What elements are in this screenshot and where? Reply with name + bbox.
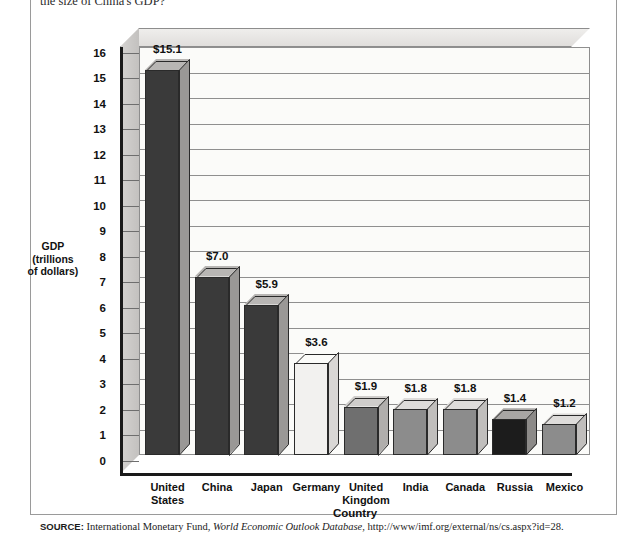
- y-tick-label: 2: [84, 405, 106, 416]
- source-post: , http://www/imf.org/external/ns/cs.aspx…: [362, 521, 563, 532]
- source-label: SOURCE:: [40, 521, 84, 532]
- x-tick-label-line: States: [131, 494, 204, 507]
- bar-united-states[interactable]: [145, 59, 179, 455]
- bar-united-kingdom[interactable]: [344, 396, 378, 455]
- gridline: [139, 47, 590, 48]
- bar-side-outline: [378, 396, 390, 460]
- bar-value-label: $5.9: [236, 278, 297, 290]
- gridline: [139, 73, 590, 74]
- bar-value-label: $7.0: [187, 250, 248, 262]
- bar-front-face: [195, 277, 229, 456]
- bar-value-label: $15.1: [137, 43, 198, 55]
- bar-side-outline: [576, 413, 588, 460]
- y-tick-label: 16: [84, 48, 106, 59]
- source-pre: International Monetary Fund,: [84, 521, 213, 532]
- x-tick-label-line: Mexico: [528, 481, 601, 494]
- bar-front-face: [294, 363, 328, 455]
- gridline: [139, 200, 590, 201]
- gridline: [139, 124, 590, 125]
- y-tick-label: 4: [84, 354, 106, 365]
- bar-side-outline: [278, 294, 290, 460]
- bar-mexico[interactable]: [542, 413, 576, 455]
- y-tick-label: 14: [84, 99, 106, 110]
- y-tick-label: 6: [84, 303, 106, 314]
- y-axis-line: [120, 47, 123, 475]
- x-axis-line: [120, 473, 572, 476]
- bar-russia[interactable]: [492, 408, 526, 455]
- bar-canada[interactable]: [443, 398, 477, 455]
- bar-side-outline: [477, 398, 489, 460]
- gridline: [139, 149, 590, 150]
- y-axis-title: GDP (trillions of dollars): [20, 240, 86, 278]
- bar-front-face: [393, 409, 427, 455]
- bar-china[interactable]: [195, 266, 229, 456]
- bar-front-face: [344, 407, 378, 455]
- y-tick-label: 8: [84, 252, 106, 263]
- bar-value-label: $1.2: [534, 397, 595, 409]
- bar-india[interactable]: [393, 398, 427, 455]
- y-tick-label: 12: [84, 150, 106, 161]
- y-axis-title-line3: of dollars): [20, 265, 86, 278]
- y-tick-label: 0: [84, 456, 106, 467]
- y-axis-title-line2: (trillions: [20, 253, 86, 266]
- bar-front-face: [443, 409, 477, 455]
- figure-page: the size of China's GDP? GDP (trillions …: [0, 0, 633, 543]
- question-fragment-text: the size of China's GDP?: [40, 0, 440, 8]
- bar-side-outline: [526, 408, 538, 460]
- y-tick-label: 10: [84, 201, 106, 212]
- bar-side-outline: [427, 398, 439, 460]
- gridline: [139, 226, 590, 227]
- chart-plot-area: $15.1$7.0$5.9$3.6$1.9$1.8$1.8$1.4$1.2: [120, 28, 590, 490]
- source-publication: World Economic Outlook Database: [213, 521, 362, 532]
- y-tick-label: 15: [84, 73, 106, 84]
- y-tick-label: 5: [84, 328, 106, 339]
- bar-value-label: $3.6: [286, 336, 347, 348]
- bar-front-face: [492, 419, 526, 455]
- bar-side-outline: [328, 352, 340, 460]
- y-tick-label: 13: [84, 124, 106, 135]
- y-tick-label: 3: [84, 379, 106, 390]
- bar-germany[interactable]: [294, 352, 328, 455]
- gridline: [139, 98, 590, 99]
- x-tick-label-line: Kingdom: [330, 494, 403, 507]
- bar-front-face: [542, 424, 576, 455]
- y-tick-label: 11: [84, 175, 106, 186]
- y-tick-label: 7: [84, 277, 106, 288]
- bar-japan[interactable]: [244, 294, 278, 455]
- page-right-rule: [616, 0, 617, 515]
- x-axis-title: Country: [120, 507, 590, 519]
- x-tick-label: Mexico: [528, 481, 601, 494]
- bar-side-outline: [229, 266, 241, 461]
- y-axis-title-line1: GDP: [20, 240, 86, 253]
- gridline: [139, 175, 590, 176]
- source-note: SOURCE: International Monetary Fund, Wor…: [40, 521, 564, 532]
- bar-front-face: [145, 70, 179, 455]
- bar-front-face: [244, 305, 278, 455]
- y-axis-tick-labels: 161514131211109876543210: [82, 28, 106, 490]
- y-tick-label: 9: [84, 226, 106, 237]
- chart-3d-left-wall: [120, 28, 140, 474]
- y-tick-label: 1: [84, 430, 106, 441]
